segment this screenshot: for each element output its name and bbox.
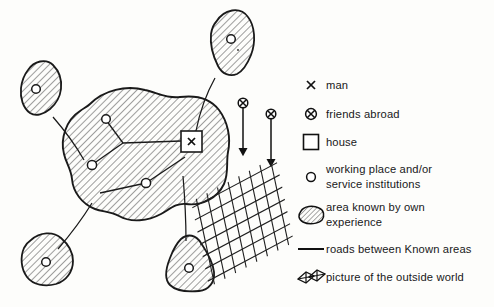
- legend-item-house: house: [296, 132, 357, 152]
- friends-abroad-arrows: [238, 98, 276, 163]
- legend-item-known-area: area known by own experience: [296, 200, 425, 229]
- upper-right-known-area: [211, 10, 254, 75]
- working-place-node: [227, 35, 236, 44]
- legend-item-outside-world: picture of the outside world: [296, 268, 464, 286]
- friends-abroad-arrow-left: [238, 98, 248, 152]
- central-known-area: [63, 88, 229, 220]
- legend-item-friends-abroad: friends abroad: [296, 106, 400, 122]
- figure-canvas: man friends abroad house: [0, 0, 494, 307]
- legend-label-known-area: area known by own experience: [326, 200, 425, 229]
- legend-label-friends-abroad: friends abroad: [326, 107, 400, 122]
- legend-label-working-place: working place and/or service institution…: [326, 162, 432, 191]
- legend-label-outside-world: picture of the outside world: [326, 270, 464, 285]
- legend: man friends abroad house: [296, 70, 494, 300]
- lower-center-known-area: [166, 236, 214, 292]
- legend-label-roads: roads between Known areas: [326, 242, 472, 257]
- legend-item-working-place: working place and/or service institution…: [296, 162, 432, 191]
- working-place-node: [42, 258, 51, 267]
- small-circle-icon: [296, 170, 326, 184]
- legend-label-man: man: [326, 78, 348, 93]
- legend-item-roads: roads between Known areas: [296, 242, 472, 257]
- working-place-node: [102, 115, 111, 124]
- line-segment-icon: [296, 244, 326, 254]
- hatched-blob-icon: [296, 204, 326, 226]
- house-marker: [181, 131, 202, 152]
- legend-label-house: house: [326, 135, 357, 150]
- lower-left-known-area: [22, 233, 73, 285]
- working-place-node: [32, 85, 41, 94]
- square-outline-icon: [296, 132, 326, 152]
- left-area-shape: [21, 61, 61, 115]
- working-place-node: [185, 264, 194, 273]
- mesh-parallelogram-icon: [296, 268, 326, 286]
- area-dot: [237, 49, 239, 51]
- circled-x-icon: [296, 106, 326, 122]
- central-area-shape: [63, 88, 229, 220]
- legend-item-man: man: [296, 78, 348, 93]
- x-mark-icon: [296, 78, 326, 92]
- friends-abroad-arrow-right: [266, 109, 276, 163]
- working-place-node: [141, 178, 150, 187]
- working-place-node: [87, 160, 96, 169]
- left-known-area: [21, 61, 61, 115]
